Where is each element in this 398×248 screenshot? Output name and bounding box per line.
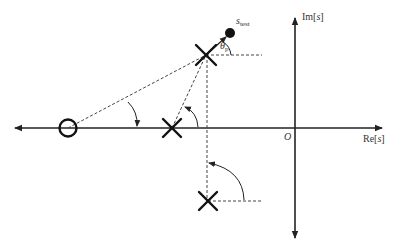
- zero-angle-arc: [128, 102, 137, 126]
- imaginary-axis-label: Im[s]: [302, 11, 324, 22]
- real-pole-to-upper-pole-line: [172, 55, 206, 128]
- real-pole-angle-arc: [185, 107, 198, 127]
- test-point-marker: [225, 28, 235, 38]
- s-plane-diagram: [0, 0, 398, 248]
- theta-subscript: p: [225, 45, 229, 53]
- test-point-label: stest: [236, 15, 250, 28]
- angle-theta-p-label: θp: [220, 40, 228, 53]
- real-axis-label: Re[s]: [363, 133, 385, 144]
- zero-to-upper-pole-line: [68, 55, 206, 128]
- test-point-subscript: test: [240, 20, 250, 28]
- angle-arcs: [128, 42, 244, 200]
- origin-label: O: [284, 131, 291, 142]
